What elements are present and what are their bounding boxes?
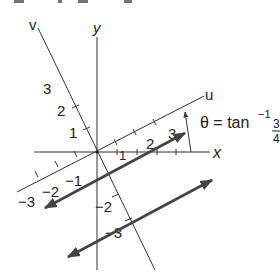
u-tick-label-pos1: 1 <box>119 148 126 163</box>
origin <box>96 151 99 154</box>
theta-exponent: −1 <box>258 108 271 120</box>
v-axis-label: v <box>29 16 37 33</box>
u-tick-label-neg1: −1 <box>65 172 82 189</box>
v-tick-label-pos3: 3 <box>43 80 51 97</box>
thick-line-upper <box>45 133 185 208</box>
header-fragment <box>14 0 132 3</box>
theta-numerator: 3 <box>273 117 280 131</box>
rotated-axes-diagram: y x u −3 −2 −1 1 2 3 v 3 2 1 −2 −3 <box>0 0 280 276</box>
theta-lhs: θ = tan <box>200 114 249 131</box>
thick-line-lower <box>68 180 212 257</box>
y-axis-label: y <box>92 19 102 36</box>
u-tick-label-neg2: −2 <box>42 183 59 200</box>
u-axis-label: u <box>205 86 213 103</box>
v-tick-label-pos2: 2 <box>57 102 65 119</box>
theta-denominator: 4 <box>273 132 280 146</box>
angle-indicator-arrow <box>185 112 191 152</box>
theta-annotation: θ = tan −1 3 4 <box>200 108 280 146</box>
v-tick-label-neg2: −2 <box>95 198 112 215</box>
x-axis-label: x <box>212 144 222 161</box>
v-tick-label-pos1: 1 <box>69 124 77 141</box>
u-tick-label-neg3: −3 <box>18 193 35 210</box>
